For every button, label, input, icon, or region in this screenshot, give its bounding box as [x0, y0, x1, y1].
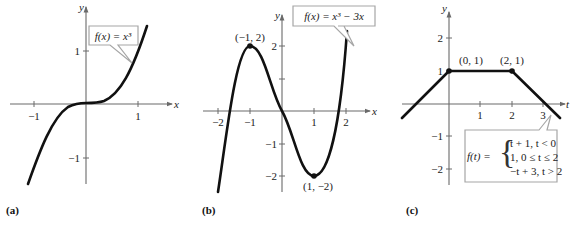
x-tick-label: −1 — [244, 116, 256, 128]
piecewise-line: −t + 3, t > 2 — [510, 165, 562, 177]
chart-b: x y −2 −1 1 2 2 −1 −2 (−1, 2) (1, −2) f(… — [202, 6, 377, 217]
x-axis-label: t — [566, 98, 570, 110]
piecewise-line: 1, 0 ≤ t ≤ 2 — [510, 151, 558, 163]
x-tick-label: −2 — [212, 116, 224, 128]
point-label: (1, −2) — [303, 180, 333, 193]
x-tick-label: 1 — [311, 116, 317, 128]
local-min-point — [311, 173, 317, 179]
point-label: (0, 1) — [459, 54, 483, 67]
y-tick-label: −2 — [265, 170, 277, 182]
figure: x y −1 1 1 −1 f(x) = x³ (a) x y −2 −1 1 … — [0, 0, 571, 225]
y-tick-label: −1 — [265, 138, 277, 150]
y-axis-label: y — [441, 2, 447, 14]
x-tick-label: 3 — [540, 109, 546, 121]
function-label: f(x) = x³ − 3x — [304, 10, 364, 23]
function-label: f(x) = x³ — [95, 30, 132, 43]
x-tick-label: 1 — [477, 109, 483, 121]
function-label: f(t) = — [467, 150, 491, 163]
x-tick-label: 2 — [509, 109, 515, 121]
point-label: (2, 1) — [500, 54, 524, 67]
chart-a: x y −1 1 1 −1 f(x) = x³ (a) — [6, 1, 179, 217]
x-tick-label: 2 — [343, 116, 349, 128]
curve-cubic — [28, 26, 147, 184]
y-tick-label: −1 — [68, 152, 80, 164]
y-axis-label: y — [78, 1, 84, 13]
piecewise-line: t + 1, t < 0 — [510, 137, 557, 149]
x-axis-label: x — [173, 98, 179, 110]
chart-c: t y 1 2 3 2 1 −1 −2 (0, 1) (2, 1) f(t) =… — [402, 2, 570, 217]
panel-label: (c) — [406, 204, 419, 217]
y-tick-label: −2 — [431, 163, 443, 175]
x-tick-label: 1 — [135, 110, 141, 122]
point-label: (−1, 2) — [235, 31, 265, 44]
x-tick-label: −1 — [28, 110, 40, 122]
panel-label: (b) — [202, 204, 216, 217]
y-tick-label: 1 — [438, 65, 444, 77]
panel-label: (a) — [6, 204, 19, 217]
y-tick-label: 2 — [438, 32, 444, 44]
point-0-1 — [446, 68, 452, 74]
y-tick-label: −1 — [431, 130, 443, 142]
y-axis-label: y — [274, 9, 280, 21]
point-2-1 — [509, 68, 515, 74]
x-axis-label: x — [371, 105, 377, 117]
y-tick-label: 2 — [272, 40, 278, 52]
local-max-point — [247, 43, 253, 49]
y-tick-label: 1 — [75, 45, 81, 57]
